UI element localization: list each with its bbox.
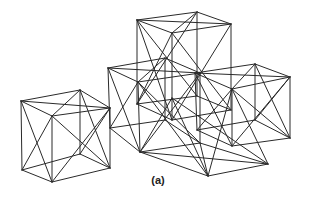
edge-B2-B3 [165, 58, 200, 73]
edge-C5-C6 [22, 154, 80, 170]
edge-A2-A3 [197, 12, 231, 24]
edge-B7-B8 [140, 143, 200, 152]
edge-E4-E8 [172, 98, 208, 176]
edge-D4-D7 [232, 89, 290, 138]
edge-C1-C2 [21, 90, 80, 101]
wireframe-edges [21, 12, 290, 182]
figure-label: (a) [151, 174, 164, 186]
edge-C2-C3 [80, 90, 110, 108]
edge-E3-E7 [232, 89, 268, 164]
edge-C4-C7 [52, 116, 110, 168]
edge-C3-C6 [80, 108, 110, 154]
edge-B4-B8 [138, 82, 140, 152]
cube-wireframe-diagram [0, 0, 314, 198]
edge-B6-B7 [165, 120, 200, 143]
edge-C1-C5 [21, 101, 22, 170]
edge-C4-C5 [22, 116, 52, 170]
edge-B4-B7 [138, 82, 200, 143]
edge-C2-C4 [52, 90, 80, 116]
edge-C1-C8 [21, 101, 52, 182]
edge-D1-D3 [195, 73, 290, 77]
edge-A4-A5 [137, 33, 172, 104]
edge-B4-B5 [110, 82, 138, 128]
figure-caption: (a) [0, 174, 314, 186]
edge-A1-A2 [137, 12, 197, 20]
edge-A5-A6 [137, 96, 197, 104]
edge-C3-C4 [52, 108, 110, 116]
